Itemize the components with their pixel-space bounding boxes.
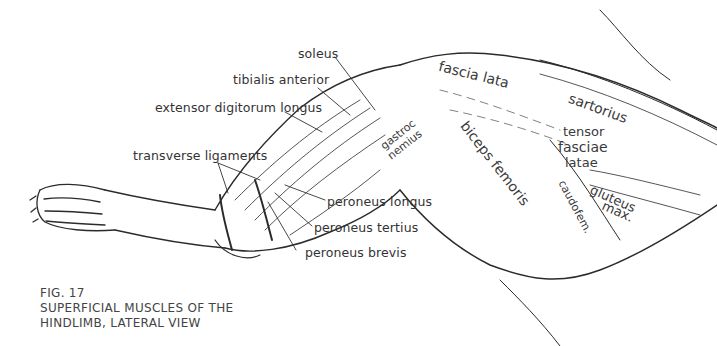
label-fasciae: fasciae bbox=[558, 139, 608, 155]
figure-number: FIG. 17 bbox=[40, 286, 233, 301]
label-transverse-ligaments: transverse ligaments bbox=[133, 148, 267, 163]
label-peroneus-longus: peroneus longus bbox=[327, 194, 432, 209]
label-peroneus-tertius: peroneus tertius bbox=[314, 220, 418, 235]
label-latae: latae bbox=[565, 155, 598, 170]
caption-line-2: HINDLIMB, LATERAL VIEW bbox=[40, 316, 233, 331]
label-tensor: tensor bbox=[563, 124, 604, 139]
label-peroneus-brevis: peroneus brevis bbox=[305, 245, 407, 260]
label-extensor-digitorum-longus: extensor digitorum longus bbox=[155, 100, 322, 115]
caption-line-1: SUPERFICIAL MUSCLES OF THE bbox=[40, 301, 233, 316]
paw-drawing bbox=[30, 184, 225, 248]
label-tibialis-anterior: tibialis anterior bbox=[233, 72, 329, 87]
figure-caption: FIG. 17 SUPERFICIAL MUSCLES OF THE HINDL… bbox=[40, 286, 233, 331]
label-soleus: soleus bbox=[298, 46, 338, 61]
